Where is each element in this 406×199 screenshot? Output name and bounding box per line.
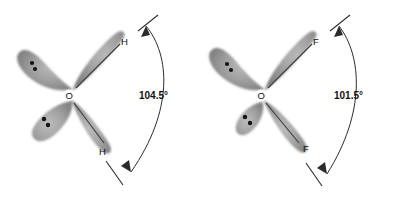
lone-pair-dot (225, 62, 229, 66)
angle-label: 104.5° (139, 90, 168, 101)
lone-pair-dot (30, 61, 34, 65)
atom-label-o-center: O (66, 90, 73, 101)
angle-label: 101.5° (334, 90, 363, 101)
atom-label-o-center: O (258, 90, 265, 101)
orbital-geometry-figure: H H O 104.5° (0, 0, 406, 199)
lone-pair-dot (229, 68, 233, 72)
atom-label-h-lower: H (99, 146, 106, 157)
lone-pair-dot (248, 121, 252, 125)
atom-label-f-lower: F (303, 143, 309, 154)
lone-pair-dot (42, 117, 46, 121)
figure-canvas: H H O 104.5° (0, 0, 406, 199)
lone-pair-dot (243, 115, 247, 119)
atom-label-f-upper: F (313, 36, 319, 47)
lone-pair-dot (33, 67, 37, 71)
lone-pair-dot (46, 123, 50, 127)
atom-label-h-upper: H (121, 36, 128, 47)
